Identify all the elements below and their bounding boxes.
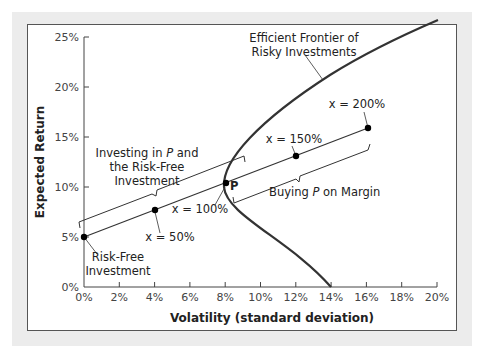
x-axis-title: Volatility (standard deviation) — [170, 311, 374, 325]
x150-label: x = 150% — [266, 132, 323, 146]
x-tick-label: 4% — [146, 291, 163, 304]
x-tick-label: 6% — [181, 291, 198, 304]
x-tick-label: 8% — [216, 291, 233, 304]
investing-label-line1: Investing in P and — [96, 146, 199, 160]
x50-label: x = 50% — [145, 230, 194, 244]
x-tick-label: 2% — [111, 291, 128, 304]
y-tick-label: 20% — [55, 81, 79, 94]
frontier-label-line2: Risky Investments — [251, 45, 356, 59]
x200-label: x = 200% — [329, 97, 386, 111]
x-tick-label: 14% — [319, 291, 343, 304]
x-tick-labels: 0% 2% 4% 6% 8% 10% 12% 14% 16% 18% 20% — [75, 291, 449, 304]
p-label: P — [230, 179, 238, 193]
y-tick-label: 25% — [55, 31, 79, 44]
efficient-frontier-curve — [224, 20, 438, 287]
risk-free-label-line1: Risk-Free — [92, 250, 144, 264]
frontier-label-line1: Efficient Frontier of — [249, 31, 359, 45]
x-tick-label: 16% — [354, 291, 378, 304]
point-p — [223, 180, 229, 186]
x-tick-label: 20% — [425, 291, 449, 304]
point-x50 — [152, 207, 158, 213]
y-axis — [84, 37, 89, 287]
point-risk-free — [81, 234, 87, 240]
point-x200 — [365, 125, 371, 131]
y-tick-label: 5% — [62, 231, 79, 244]
x-tick-label: 18% — [389, 291, 413, 304]
y-tick-label: 15% — [55, 131, 79, 144]
y-tick-labels: 25% 20% 15% 10% 5% 0% — [55, 31, 79, 294]
investing-label-line2: the Risk-Free — [110, 160, 185, 174]
y-tick-label: 10% — [55, 181, 79, 194]
x-tick-label: 10% — [248, 291, 272, 304]
x-tick-label: 0% — [75, 291, 92, 304]
x100-label: x = 100% — [172, 202, 229, 216]
y-axis-title: Expected Return — [33, 106, 47, 219]
x-tick-label: 12% — [284, 291, 308, 304]
chart-canvas: 25% 20% 15% 10% 5% 0% 0% 2% 4% 6% 8% 10%… — [0, 0, 488, 356]
point-x150 — [293, 153, 299, 159]
investing-label-line3: Investment — [114, 174, 180, 188]
risk-free-label-line2: Investment — [85, 264, 151, 278]
x-axis — [84, 282, 437, 287]
margin-label: Buying P on Margin — [269, 185, 380, 199]
